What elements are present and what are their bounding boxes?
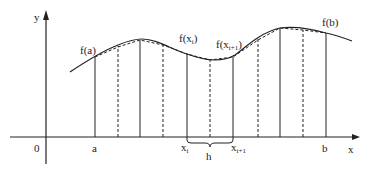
tick-a: a xyxy=(92,142,97,154)
tick-b: b xyxy=(322,142,328,154)
dashed-ordinates xyxy=(118,30,303,137)
origin-label: 0 xyxy=(34,142,40,154)
label-f-a: f(a) xyxy=(80,44,96,57)
y-axis-label: y xyxy=(34,11,40,23)
label-f-b: f(b) xyxy=(322,16,339,29)
function-curve xyxy=(70,27,352,72)
x-axis-arrow-icon xyxy=(352,134,360,140)
tick-xi1: xi+1 xyxy=(231,141,246,155)
tick-xi: xi xyxy=(181,141,189,155)
step-h-label: h xyxy=(206,150,212,162)
y-axis-arrow-icon xyxy=(43,10,49,20)
label-f-xi: f(xi) xyxy=(179,32,198,46)
trapezoidal-rule-diagram: y x 0 a xi xi+1 b h f(a) f(xi) f(xi+1) f… xyxy=(0,0,367,169)
label-f-xi1: f(xi+1) xyxy=(216,38,242,52)
interval-brace xyxy=(187,137,233,147)
x-axis-label: x xyxy=(348,143,354,155)
trapezoid-chords xyxy=(95,28,326,60)
